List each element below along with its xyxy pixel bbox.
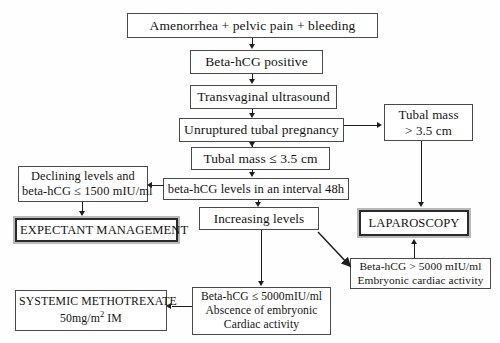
node-low-hcg-line3: Cardiac activity bbox=[196, 318, 327, 332]
edge-ultrasound-to-unruptured-arrow bbox=[249, 113, 255, 118]
edge-high-hcg-to-laparoscopy-arrow bbox=[411, 239, 417, 244]
node-high-hcg-line2: Embryonic cardiac activity bbox=[354, 274, 487, 287]
node-low-hcg-line1: Beta-hCG ≤ 5000mIU/ml bbox=[196, 290, 327, 304]
node-tubal-mass-large: Tubal mass > 3.5 cm bbox=[384, 104, 473, 141]
node-methotrexate-line2: 50mg/m2 IM bbox=[19, 309, 163, 326]
flowchart-canvas: Amenorrhea + pelvic pain + bleeding Beta… bbox=[0, 0, 500, 343]
node-tubal-mass-large-line1: Tubal mass bbox=[388, 107, 469, 122]
node-interval-48h: beta-hCG levels in an interval 48h bbox=[163, 178, 349, 200]
node-unruptured-tubal-pregnancy: Unruptured tubal pregnancy bbox=[179, 118, 344, 142]
node-interval-line1: beta-hCG levels in an interval 48h bbox=[167, 182, 345, 197]
methotrexate-dose: 50mg/m bbox=[60, 311, 100, 325]
edge-mass-large-to-laparoscopy bbox=[421, 141, 422, 203]
edge-high-hcg-to-laparoscopy bbox=[414, 243, 415, 258]
edge-interval-to-increasing-arrow bbox=[255, 202, 261, 207]
node-presentation-line1: Amenorrhea + pelvic pain + bleeding bbox=[131, 18, 374, 34]
node-expectant-line1: EXPECTANT MANAGEMENT bbox=[20, 223, 173, 238]
edge-mass-small-to-interval-arrow bbox=[249, 172, 255, 177]
methotrexate-route: IM bbox=[104, 311, 122, 325]
edge-declining-to-expectant-arrow bbox=[79, 211, 85, 216]
node-ultrasound-line1: Transvaginal ultrasound bbox=[194, 89, 333, 105]
node-beta-hcg-positive: Beta-hCG positive bbox=[190, 50, 323, 74]
node-tubal-mass-small-line1: Tubal mass ≤ 3.5 cm bbox=[195, 151, 326, 167]
node-presentation: Amenorrhea + pelvic pain + bleeding bbox=[127, 13, 378, 38]
edge-presentation-to-positive-arrow bbox=[249, 44, 255, 49]
edge-unruptured-to-mass-large bbox=[344, 125, 377, 126]
node-increasing-line1: Increasing levels bbox=[203, 211, 315, 227]
edge-unruptured-to-mass-large-arrow bbox=[377, 122, 382, 128]
edge-mass-large-to-laparoscopy-arrow bbox=[418, 202, 424, 207]
edge-positive-to-ultrasound-arrow bbox=[249, 79, 255, 84]
node-increasing-levels: Increasing levels bbox=[199, 207, 319, 230]
node-methotrexate-line1: SYSTEMIC METHOTREXATE bbox=[19, 295, 163, 309]
node-low-hcg-criteria: Beta-hCG ≤ 5000mIU/ml Abscence of embryo… bbox=[192, 287, 331, 335]
edge-interval-to-declining-arrow bbox=[147, 182, 152, 188]
edge-low-hcg-to-methotrexate bbox=[172, 306, 192, 307]
edge-low-hcg-to-methotrexate-arrow bbox=[166, 303, 171, 309]
node-systemic-methotrexate: SYSTEMIC METHOTREXATE 50mg/m2 IM bbox=[15, 290, 167, 331]
node-low-hcg-line2: Abscence of embryonic bbox=[196, 304, 327, 318]
node-laparoscopy-line1: LAPAROSCOPY bbox=[364, 216, 464, 231]
node-unruptured-line1: Unruptured tubal pregnancy bbox=[183, 122, 340, 138]
edge-increasing-to-low-hcg-arrow bbox=[258, 281, 264, 286]
node-tubal-mass-small: Tubal mass ≤ 3.5 cm bbox=[191, 147, 330, 170]
edge-unruptured-to-mass-small-arrow bbox=[249, 142, 255, 147]
node-laparoscopy: LAPAROSCOPY bbox=[359, 210, 469, 236]
node-expectant-management: EXPECTANT MANAGEMENT bbox=[15, 218, 178, 242]
node-declining-line2: beta-hCG ≤ 1500 mIU/ml bbox=[22, 184, 144, 199]
edge-interval-to-declining bbox=[152, 185, 164, 186]
node-high-hcg-criteria: Beta-hCG > 5000 mIU/ml Embryonic cardiac… bbox=[350, 258, 491, 289]
node-declining-line1: Declining levels and bbox=[22, 169, 144, 184]
node-high-hcg-line1: Beta-hCG > 5000 mIU/ml bbox=[354, 260, 487, 273]
node-tubal-mass-large-line2: > 3.5 cm bbox=[388, 123, 469, 138]
node-ultrasound: Transvaginal ultrasound bbox=[190, 85, 337, 109]
node-beta-hcg-positive-line1: Beta-hCG positive bbox=[194, 54, 319, 70]
edge-increasing-to-low-hcg bbox=[261, 230, 262, 282]
node-declining-levels: Declining levels and beta-hCG ≤ 1500 mIU… bbox=[18, 166, 148, 202]
